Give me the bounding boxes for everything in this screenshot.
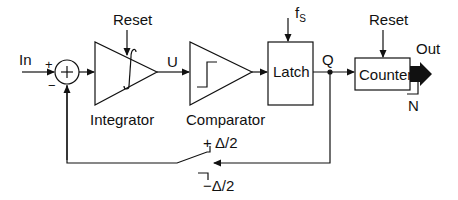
integrator-block bbox=[95, 42, 157, 105]
plus-delta-label: + Δ/2 bbox=[203, 135, 238, 150]
minus-delta-label: −Δ/2 bbox=[203, 178, 234, 193]
clock-label: fS bbox=[295, 5, 306, 24]
comparator-label: Comparator bbox=[186, 112, 265, 127]
diagram-canvas bbox=[0, 0, 458, 200]
comparator-block bbox=[190, 42, 252, 105]
counter-reset-label: Reset bbox=[369, 12, 408, 27]
block-diagram: In + − Reset Integrator U Comparator fS … bbox=[0, 0, 458, 200]
sum-minus-sign: − bbox=[48, 79, 56, 92]
out-label: Out bbox=[416, 41, 440, 56]
sum-plus-sign: + bbox=[45, 58, 53, 71]
n-label: N bbox=[408, 98, 419, 113]
integrator-label: Integrator bbox=[90, 112, 154, 127]
u-label: U bbox=[167, 54, 178, 69]
counter-label: Counter bbox=[359, 67, 412, 82]
input-label: In bbox=[19, 52, 32, 67]
output-bus-arrow bbox=[410, 62, 432, 86]
integrator-reset-label: Reset bbox=[113, 12, 152, 27]
q-label: Q bbox=[322, 52, 334, 67]
latch-label: Latch bbox=[273, 64, 310, 79]
